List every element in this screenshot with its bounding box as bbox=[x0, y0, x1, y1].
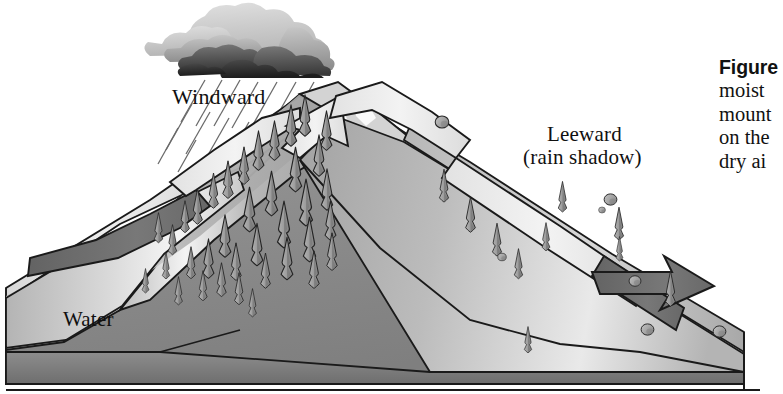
label-water: Water bbox=[63, 307, 114, 332]
caption-line-2: mount bbox=[719, 103, 783, 126]
label-rain-shadow: (rain shadow) bbox=[523, 145, 642, 170]
caption-line-3: on the bbox=[719, 126, 783, 149]
figure-canvas: Windward Leeward (rain shadow) Water Fig… bbox=[0, 0, 783, 394]
caption-line-1: moist bbox=[719, 79, 783, 102]
rain-cloud-icon bbox=[144, 3, 334, 78]
caption-heading: Figure bbox=[719, 56, 783, 79]
caption-line-4: dry ai bbox=[719, 150, 783, 173]
label-leeward: Leeward bbox=[547, 122, 622, 147]
label-windward: Windward bbox=[172, 84, 266, 110]
rain-shadow-illustration bbox=[0, 0, 783, 394]
figure-caption: Figure moist mount on the dry ai bbox=[719, 56, 783, 173]
